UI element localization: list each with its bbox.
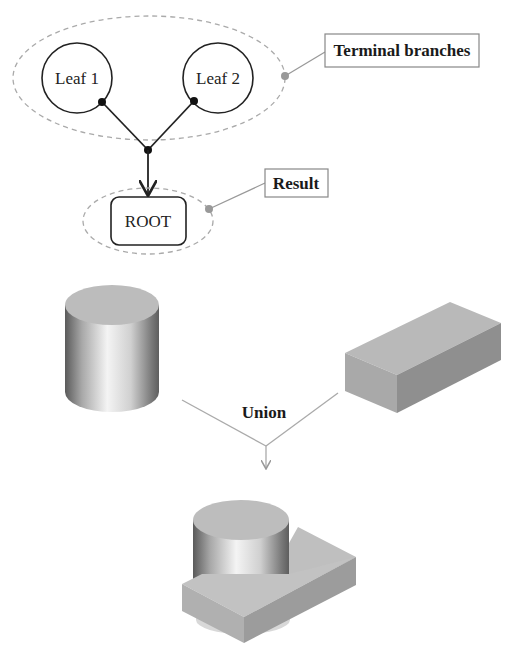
terminal-branches-group: Leaf 1 Leaf 2 (13, 16, 285, 140)
root-label: ROOT (125, 212, 172, 231)
callout-terminal-branches: Terminal branches (281, 34, 479, 80)
edge-leaf2-junction (148, 101, 194, 150)
edge-leaf1-junction (102, 102, 148, 150)
union-label: Union (242, 403, 287, 422)
union-connector: Union (182, 393, 338, 469)
leaf-2-label: Leaf 2 (196, 69, 240, 88)
box-solid (345, 302, 501, 413)
leaf-1-label: Leaf 1 (55, 69, 99, 88)
leaf-1-port-dot (98, 98, 106, 106)
callout-terminal-label: Terminal branches (334, 41, 471, 60)
leaf-2-port-dot (190, 97, 198, 105)
result-group: ROOT (83, 188, 213, 254)
union-cylinder-top (193, 500, 289, 540)
callout-result: Result (205, 169, 328, 213)
callout-result-dot (205, 205, 213, 213)
callout-terminal-dot (281, 72, 289, 80)
union-result-solid (182, 500, 356, 643)
cylinder-solid (65, 285, 159, 412)
csg-diagram: Leaf 1 Leaf 2 ROOT Terminal branches Res… (0, 0, 521, 663)
callout-result-label: Result (273, 174, 320, 193)
